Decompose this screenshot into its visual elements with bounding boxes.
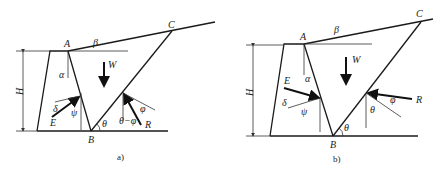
height-label-a: H: [14, 87, 25, 96]
psi-label-b: ψ: [301, 106, 308, 117]
retaining-wall-a: [37, 51, 91, 131]
theta-label-a: θ: [102, 118, 107, 129]
weight-label-b: W: [352, 54, 362, 65]
retaining-wall-b: [270, 44, 333, 136]
height-label-b: H: [244, 88, 255, 97]
alpha-label-b: α: [305, 73, 311, 84]
theta-arc-b: [339, 128, 343, 136]
point-C-label-b: C: [416, 8, 423, 19]
delta-label-a: δ: [53, 103, 58, 114]
phi-label-a: φ: [140, 103, 146, 114]
backfill-surface-a: [68, 22, 215, 51]
beta-label-a: β: [92, 37, 98, 48]
point-B-label-a: B: [88, 134, 94, 145]
E-label-a: E: [49, 117, 56, 128]
theta-arc-a: [97, 124, 100, 131]
alpha-label-a: α: [59, 69, 65, 80]
figure-a: A B C H W α β δ ψ E θ θ−φ φ R a): [14, 19, 215, 162]
phi-label-b: φ: [390, 94, 396, 105]
beta-label-b: β: [333, 24, 339, 35]
earth-pressure-arrow-b: [284, 88, 319, 98]
caption-b: b): [333, 154, 341, 164]
point-A-label-b: A: [299, 31, 307, 42]
E-label-b: E: [283, 75, 290, 86]
R-label-a: R: [144, 119, 151, 130]
theta-label-b: θ: [344, 122, 349, 133]
theta-minus-phi-label-a: θ−φ: [119, 115, 137, 126]
caption-a: a): [117, 152, 124, 162]
psi-label-a: ψ: [71, 107, 78, 118]
point-C-label-a: C: [168, 19, 175, 30]
point-A-label-a: A: [63, 38, 71, 49]
R-label-b: R: [415, 94, 422, 105]
weight-label-a: W: [108, 59, 118, 70]
point-B-label-b: B: [330, 139, 336, 150]
figure-b: A B C H W α β δ ψ E θ θ φ R b): [244, 8, 433, 164]
wedge-diagrams: A B C H W α β δ ψ E θ θ−φ φ R a) A: [0, 0, 443, 175]
theta-R-label-b: θ: [370, 104, 375, 115]
delta-label-b: δ: [282, 97, 287, 108]
